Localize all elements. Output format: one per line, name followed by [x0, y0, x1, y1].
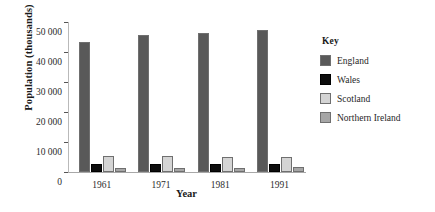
y-axis-tick-label: 50 000: [18, 27, 62, 37]
legend-label-northern-ireland: Northern Ireland: [337, 113, 401, 123]
legend-rows: EnglandWalesScotlandNorthern Ireland: [320, 51, 432, 127]
legend-label-england: England: [337, 56, 369, 66]
legend-swatch-wales: [320, 74, 331, 85]
bar-northern-ireland-1961: [115, 168, 126, 172]
bar-england-1991: [257, 30, 268, 173]
x-axis-tick-label: 1961: [82, 180, 122, 190]
legend-item-scotland: Scotland: [320, 89, 432, 108]
y-axis-tick-label: 10 000: [18, 147, 62, 157]
bar-northern-ireland-1991: [293, 167, 304, 172]
bar-scotland-1961: [103, 156, 114, 172]
bar-scotland-1991: [281, 157, 292, 172]
y-axis-tick-label: 30 000: [18, 87, 62, 97]
bar-england-1981: [198, 33, 209, 172]
y-axis-tick-mark: [64, 112, 68, 113]
legend-label-wales: Wales: [337, 75, 360, 85]
legend-item-wales: Wales: [320, 70, 432, 89]
plot-area: [68, 22, 306, 173]
y-axis-tick-mark: [64, 52, 68, 53]
y-axis-tick-mark: [64, 22, 68, 23]
x-axis-tick-label: 1971: [141, 180, 181, 190]
bar-wales-1991: [269, 164, 280, 172]
y-axis-tick-label: 0: [18, 177, 62, 187]
bar-groups-layer: [69, 22, 306, 172]
legend-item-northern-ireland: Northern Ireland: [320, 108, 432, 127]
legend-label-scotland: Scotland: [337, 94, 370, 104]
bar-group: [138, 22, 185, 172]
x-axis-tick-label: 1981: [200, 180, 240, 190]
y-axis-tick-labels: 50 00040 00030 00020 00010 0000: [18, 16, 62, 176]
bar-chart: Population (thousands) 50 00040 00030 00…: [0, 0, 435, 212]
bar-wales-1961: [91, 164, 102, 172]
legend-title: Key: [322, 36, 432, 46]
bar-wales-1981: [210, 164, 221, 172]
bar-group: [198, 22, 245, 172]
bar-northern-ireland-1981: [234, 168, 245, 173]
bar-group: [257, 22, 304, 172]
bar-wales-1971: [150, 164, 161, 172]
y-axis-tick-mark: [64, 172, 68, 173]
x-axis-tick-label: 1991: [259, 180, 299, 190]
legend: Key EnglandWalesScotlandNorthern Ireland: [320, 36, 432, 127]
bar-england-1961: [79, 42, 90, 172]
y-axis-tick-mark: [64, 142, 68, 143]
legend-swatch-england: [320, 55, 331, 66]
bar-northern-ireland-1971: [174, 168, 185, 173]
y-axis-tick-mark: [64, 82, 68, 83]
bar-group: [79, 22, 126, 172]
legend-swatch-scotland: [320, 93, 331, 104]
bar-england-1971: [138, 35, 149, 172]
y-axis-tick-label: 20 000: [18, 117, 62, 127]
bar-scotland-1981: [222, 157, 233, 172]
legend-item-england: England: [320, 51, 432, 70]
y-axis-tick-label: 40 000: [18, 57, 62, 67]
legend-swatch-northern-ireland: [320, 112, 331, 123]
bar-scotland-1971: [162, 156, 173, 172]
